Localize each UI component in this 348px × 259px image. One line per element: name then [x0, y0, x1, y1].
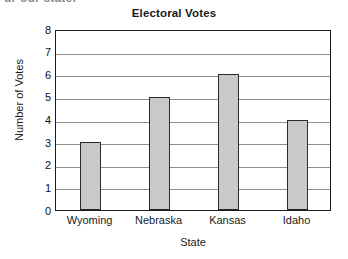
y-axis-tick-label: 5 — [37, 92, 51, 103]
y-axis-tick-label: 0 — [37, 206, 51, 217]
y-axis-tick-label: 2 — [37, 160, 51, 171]
bar-wyoming — [80, 142, 101, 210]
x-axis-tick-label: Wyoming — [67, 214, 113, 227]
y-axis-tick-label: 8 — [37, 25, 51, 36]
plot-area — [55, 30, 331, 211]
y-axis-tick-labels: 012345678 — [35, 30, 51, 211]
chart-title: Electoral Votes — [0, 7, 348, 19]
y-axis-tick-label: 7 — [37, 47, 51, 58]
y-axis-title: Number of Votes — [13, 40, 25, 160]
x-axis-tick-label: Nebraska — [135, 214, 182, 227]
bars-layer — [56, 31, 330, 210]
x-axis-title: State — [55, 236, 331, 248]
bar-nebraska — [149, 97, 170, 210]
x-axis-tick-label: Kansas — [209, 214, 246, 227]
y-axis-tick-label: 1 — [37, 183, 51, 194]
y-axis-tick-label: 3 — [37, 138, 51, 149]
clipped-header-text: ur our state. — [4, 0, 76, 5]
x-axis-tick-labels: WyomingNebraskaKansasIdaho — [55, 214, 331, 230]
bar-idaho — [287, 120, 308, 211]
x-axis-tick-label: Idaho — [283, 214, 311, 227]
y-axis-tick-label: 6 — [37, 70, 51, 81]
bar-kansas — [218, 74, 239, 210]
y-axis-tick-label: 4 — [37, 115, 51, 126]
